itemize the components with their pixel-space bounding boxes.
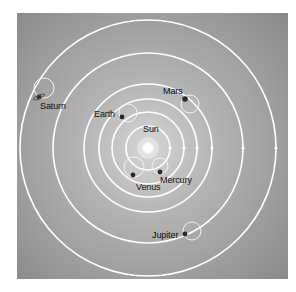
orbit-diagram-canvas xyxy=(0,0,296,292)
mars-planet-icon xyxy=(182,96,188,102)
venus-label: Venus xyxy=(136,183,161,192)
solar-system-diagram: Sun Saturn Earth Mars Mercury Venus Jupi… xyxy=(0,0,296,292)
jupiter-planet-icon xyxy=(183,232,188,237)
saturn-label: Saturn xyxy=(40,102,66,111)
earth-label: Earth xyxy=(94,110,115,119)
mars-label: Mars xyxy=(163,87,183,96)
earth-planet-icon xyxy=(120,115,125,120)
mercury-label: Mercury xyxy=(160,176,192,185)
mercury-planet-icon xyxy=(158,170,163,175)
jupiter-label: Jupiter xyxy=(152,231,178,240)
venus-planet-icon xyxy=(131,173,136,178)
sun-icon xyxy=(141,141,155,155)
sun-label: Sun xyxy=(143,125,159,134)
